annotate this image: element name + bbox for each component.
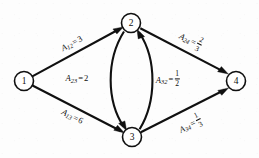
node-2-label: 2 xyxy=(129,18,134,28)
edge-3-to-4-arrowhead xyxy=(218,88,229,95)
edge-label-a32-denominator: 2 xyxy=(174,80,180,88)
edge-3-to-2-curve xyxy=(140,33,153,129)
edge-label-a23-subscript: 23 xyxy=(71,77,77,84)
edge-label-a32-subscript: 32 xyxy=(161,78,167,85)
node-2[interactable]: 2 xyxy=(122,14,141,33)
edge-label-a23-value: 2 xyxy=(84,73,88,83)
edge-3-to-2 xyxy=(137,29,152,129)
edge-label-a32: A32=12 xyxy=(156,70,180,87)
node-1-label: 1 xyxy=(22,76,27,86)
graph-svg: 1 2 3 4 xyxy=(0,0,259,158)
edge-label-a32-numerator: 1 xyxy=(174,70,180,78)
node-3[interactable]: 3 xyxy=(123,128,142,147)
edge-2-to-3 xyxy=(111,32,127,131)
node-4[interactable]: 4 xyxy=(227,72,246,91)
edge-label-a32-relation: = xyxy=(168,75,173,85)
figure-canvas: 1 2 3 4 A12=3 A13=6 A23=2 A32=12 A24=23 … xyxy=(0,0,259,158)
edge-label-a23: A23=2 xyxy=(66,74,89,84)
node-3-label: 3 xyxy=(130,132,135,142)
node-4-label: 4 xyxy=(234,76,239,86)
node-1[interactable]: 1 xyxy=(15,72,34,91)
edge-label-a23-relation: = xyxy=(78,73,83,83)
edge-2-to-4-arrowhead xyxy=(218,67,229,74)
edge-label-a32-fraction: 12 xyxy=(174,70,180,87)
edge-2-to-3-curve xyxy=(111,32,124,127)
